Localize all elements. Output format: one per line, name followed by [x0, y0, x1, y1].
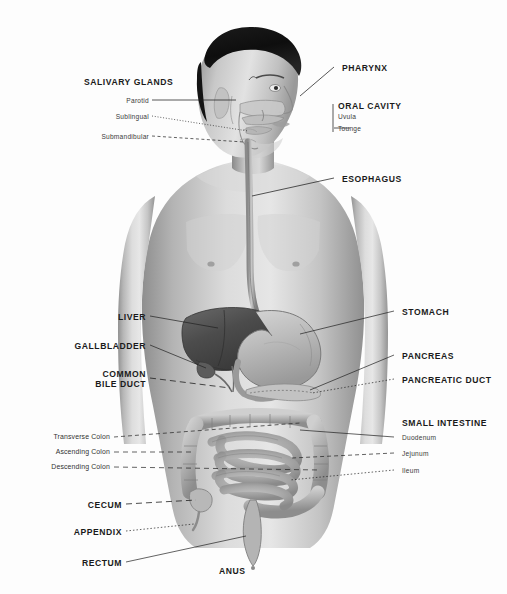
label-anus: ANUS [219, 566, 246, 576]
label-common-bile-duct-line2: BILE DUCT [0, 379, 146, 389]
label-pharynx: PHARYNX [342, 63, 388, 73]
label-ileum: Ileum [402, 467, 419, 475]
label-esophagus: ESOPHAGUS [342, 174, 402, 184]
label-oral-cavity: ORAL CAVITY [338, 101, 402, 111]
label-sublingual: Sublingual [0, 113, 149, 121]
label-common-bile-duct-line1: COMMON [0, 369, 146, 379]
right-nipple [292, 261, 299, 266]
label-stomach: STOMACH [402, 307, 449, 317]
left-nipple [207, 261, 214, 266]
label-transverse-colon: Transverse Colon [0, 433, 110, 441]
label-liver: LIVER [0, 312, 146, 322]
ascending-colon-organ [188, 424, 196, 492]
label-small-intestine: SMALL INTESTINE [402, 418, 487, 428]
transverse-colon-organ [196, 415, 314, 424]
rectum-organ [243, 500, 261, 566]
label-pancreas: PANCREAS [402, 351, 454, 361]
label-appendix: APPENDIX [0, 527, 122, 537]
label-uvula: Uvula [338, 113, 356, 121]
digestive-system-diagram: SALIVARY GLANDS Parotid Sublingual Subma… [0, 0, 507, 594]
label-common-bile-duct: COMMON BILE DUCT [0, 369, 146, 389]
leader-rectum [126, 536, 246, 562]
pupil [274, 86, 278, 90]
anus-organ [251, 566, 255, 570]
label-duodenum: Duodenum [402, 434, 436, 442]
label-rectum: RECTUM [0, 558, 122, 568]
label-salivary-glands: SALIVARY GLANDS [84, 77, 173, 87]
nasal-cavity [240, 100, 285, 116]
label-cecum: CECUM [0, 500, 122, 510]
label-pancreatic-duct: PANCREATIC DUCT [402, 375, 492, 385]
label-descending-colon: Descending Colon [0, 463, 110, 471]
label-parotid: Parotid [0, 97, 149, 105]
label-jejunum: Jejunum [402, 450, 429, 458]
leader-pharynx [300, 67, 334, 96]
label-ascending-colon: Ascending Colon [0, 448, 110, 456]
label-submandibular: Submandibular [0, 133, 149, 141]
label-tounge: Tounge [338, 125, 361, 133]
label-gallbladder: GALLBLADDER [0, 341, 146, 351]
